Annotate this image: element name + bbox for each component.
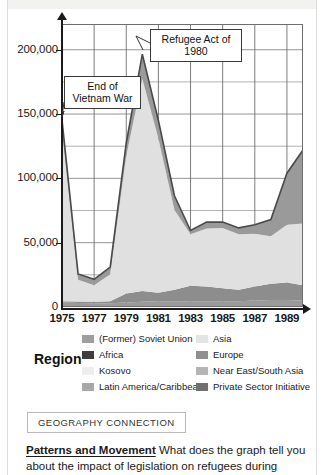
legend-column-2: AsiaEuropeNear East/South AsiaPrivate Se… — [196, 331, 323, 395]
callout-refugee-act-line1: Refugee Act of — [156, 33, 236, 45]
legend-title: Region — [34, 351, 81, 367]
callout-end-of-vietnam-war: End of Vietnam War — [64, 76, 141, 109]
legend-item-label: Near East/South Asia — [213, 365, 303, 376]
legend-item: Near East/South Asia — [196, 363, 323, 378]
legend-item: Latin America/Caribbean — [82, 379, 202, 394]
legend-swatch — [196, 367, 208, 375]
legend-item-label: Asia — [213, 333, 231, 344]
legend-item: Kosovo — [82, 363, 202, 378]
legend-swatch — [82, 335, 94, 343]
callout-refugee-act-line2: 1980 — [156, 45, 236, 57]
legend-item-label: Africa — [99, 349, 123, 360]
page-top-band — [8, 0, 316, 9]
legend-item-label: (Former) Soviet Union — [99, 333, 192, 344]
callout-vietnam-line2: Vietnam War — [70, 92, 135, 104]
legend-item-label: Latin America/Caribbean — [99, 381, 203, 392]
callout-vietnam-line1: End of — [70, 80, 135, 92]
legend-item: Africa — [82, 347, 202, 362]
legend-swatch — [82, 367, 94, 375]
legend-swatch — [196, 351, 208, 359]
legend-item-label: Europe — [213, 349, 244, 360]
legend-item: Private Sector Initiative — [196, 379, 323, 394]
legend-column-1: (Former) Soviet UnionAfricaKosovoLatin A… — [82, 331, 202, 395]
legend-swatch — [82, 351, 94, 359]
callout-refugee-act-of-1980: Refugee Act of 1980 — [150, 29, 242, 62]
legend-swatch — [196, 383, 208, 391]
refugee-admissions-area-chart: 200,000150,000100,00050,0000 19751977197… — [0, 10, 323, 325]
legend-item-label: Kosovo — [99, 365, 131, 376]
legend-item-label: Private Sector Initiative — [213, 381, 310, 392]
textbook-page: 200,000150,000100,00050,0000 19751977197… — [0, 0, 323, 475]
legend-swatch — [82, 383, 94, 391]
question-heading: Patterns and Movement — [26, 444, 156, 456]
legend-item: (Former) Soviet Union — [82, 331, 202, 346]
chart-legend: Region (Former) Soviet UnionAfricaKosovo… — [8, 329, 316, 395]
legend-item: Asia — [196, 331, 323, 346]
legend-swatch — [196, 335, 208, 343]
question-prompt: Patterns and Movement What does the grap… — [26, 443, 316, 474]
legend-item: Europe — [196, 347, 323, 362]
geography-connection-badge: GEOGRAPHY CONNECTION — [27, 412, 186, 433]
